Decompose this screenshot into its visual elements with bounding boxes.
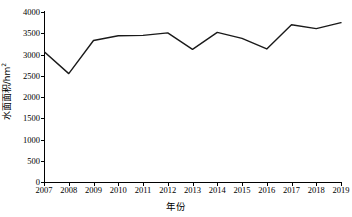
x-axis-tick-mark xyxy=(267,183,268,186)
y-axis-tick-label: 2500 xyxy=(23,72,40,81)
x-axis-tick-label: 2017 xyxy=(283,186,300,195)
y-axis-tick-mark xyxy=(41,97,44,98)
y-axis-tick-mark xyxy=(41,12,44,13)
x-axis-tick-mark xyxy=(118,183,119,186)
y-axis-tick-mark xyxy=(41,118,44,119)
y-axis-tick-label: 3500 xyxy=(23,29,40,38)
x-axis-tick-label: 2016 xyxy=(258,186,275,195)
y-axis-tick-mark xyxy=(41,161,44,162)
y-axis-tick-label: 500 xyxy=(27,157,40,166)
y-axis-title-superscript: 2 xyxy=(1,62,8,66)
data-series-line xyxy=(44,12,342,182)
y-axis-tick-labels: 05001000150020002500300035004000 xyxy=(13,0,42,195)
x-axis-tick-label: 2009 xyxy=(85,186,102,195)
x-axis-tick-mark xyxy=(69,183,70,186)
plot-area xyxy=(44,12,342,182)
y-axis-tick-label: 4000 xyxy=(23,8,40,17)
y-axis-tick-label: 1000 xyxy=(23,135,40,144)
y-axis-tick-mark xyxy=(41,140,44,141)
x-axis-title: 年份 xyxy=(0,199,352,213)
x-axis-tick-label: 2010 xyxy=(110,186,127,195)
y-axis-title-text: 水面面积/hm xyxy=(3,66,13,120)
x-axis-tick-mark xyxy=(292,183,293,186)
x-axis-tick-label: 2008 xyxy=(60,186,77,195)
x-axis-tick-labels: 2007200820092010201120122013201420152016… xyxy=(0,186,352,200)
y-axis-tick-label: 1500 xyxy=(23,114,40,123)
y-axis-tick-label: 2000 xyxy=(23,93,40,102)
y-axis-tick-label: 3000 xyxy=(23,50,40,59)
x-axis-tick-label: 2011 xyxy=(135,186,152,195)
y-axis-tick-mark xyxy=(41,33,44,34)
x-axis-tick-label: 2018 xyxy=(308,186,325,195)
x-axis-tick-mark xyxy=(44,183,45,186)
x-axis-tick-label: 2015 xyxy=(234,186,251,195)
x-axis-tick-mark xyxy=(143,183,144,186)
x-axis-tick-mark xyxy=(242,183,243,186)
y-axis-title: 水面面积/hm2 xyxy=(0,0,14,182)
x-axis-tick-label: 2013 xyxy=(184,186,201,195)
x-axis-tick-mark xyxy=(341,183,342,186)
x-axis-tick-mark xyxy=(217,183,218,186)
x-axis-tick-mark xyxy=(316,183,317,186)
x-axis-tick-mark xyxy=(193,183,194,186)
chart-figure: 水面面积/hm2 0500100015002000250030003500400… xyxy=(0,0,352,217)
x-axis-tick-label: 2012 xyxy=(159,186,176,195)
y-axis-tick-mark xyxy=(41,55,44,56)
x-axis-tick-mark xyxy=(94,183,95,186)
y-axis-tick-mark xyxy=(41,76,44,77)
x-axis-tick-mark xyxy=(168,183,169,186)
x-axis-tick-label: 2007 xyxy=(36,186,53,195)
x-axis-tick-label: 2019 xyxy=(333,186,350,195)
x-axis-tick-label: 2014 xyxy=(209,186,226,195)
